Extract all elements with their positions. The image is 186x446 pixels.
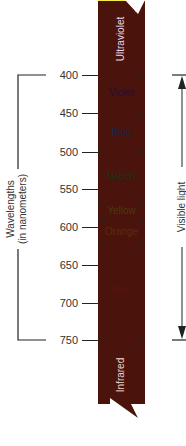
tick-label: 450 <box>52 107 78 119</box>
band-orange: Orange <box>98 226 145 238</box>
inner-tick <box>98 220 104 222</box>
band-green: Green <box>98 170 145 182</box>
tick-line <box>82 303 102 304</box>
inner-tick <box>139 201 145 203</box>
visible-light-label: Visible light <box>176 167 186 247</box>
band-ultraviolet: Ultraviolet <box>115 4 127 74</box>
tick-label: 650 <box>52 259 78 271</box>
band-violet: Violet <box>98 87 145 99</box>
inner-tick <box>139 152 145 154</box>
tick-line <box>82 340 102 341</box>
axis-label: Wavelengths (in nanometers) <box>5 169 31 249</box>
tick-line <box>82 265 102 266</box>
band-yellow: Yellow <box>98 205 145 217</box>
band-blue: Blue <box>98 126 145 138</box>
tick-label: 500 <box>52 146 78 158</box>
tick-line <box>82 189 102 190</box>
tick-label: 400 <box>52 69 78 81</box>
inner-tick <box>98 244 104 246</box>
inner-tick <box>98 201 104 203</box>
tick-label: 700 <box>52 297 78 309</box>
tick-line <box>82 75 102 76</box>
tick-line <box>82 152 102 153</box>
band-infrared: Infrared <box>115 340 127 410</box>
tick-label: 600 <box>52 221 78 233</box>
inner-tick <box>139 113 145 115</box>
band-red: Red <box>98 284 145 296</box>
inner-tick <box>139 340 145 342</box>
inner-tick <box>139 75 145 77</box>
tick-label: 750 <box>52 334 78 346</box>
tick-line <box>82 113 102 114</box>
inner-tick <box>139 244 145 246</box>
inner-tick <box>139 220 145 222</box>
axis-label-line2: (in nanometers) <box>17 169 29 249</box>
axis-label-line1: Wavelengths <box>5 169 17 249</box>
tick-label: 550 <box>52 183 78 195</box>
